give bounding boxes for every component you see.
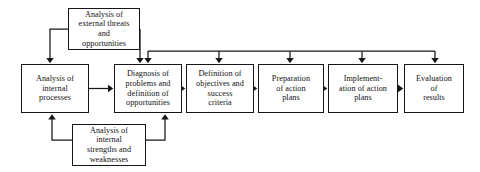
edge-strengths-to-internal-processes	[52, 117, 72, 140]
node-definition-of-objectives[interactable]: Definition of objectives and success cri…	[186, 64, 254, 113]
node-label: Definition of objectives and success cri…	[189, 69, 251, 107]
node-diagnosis-of-problems[interactable]: Diagnosis of problems and definition of …	[114, 64, 182, 113]
node-evaluation-of-results[interactable]: Evaluation of results	[404, 64, 464, 113]
node-label: Implement- ation of action plans	[331, 74, 395, 103]
node-preparation-of-action-plans[interactable]: Preparation of action plans	[258, 64, 324, 113]
node-analysis-external-threats[interactable]: Analysis of external threats and opportu…	[68, 8, 140, 50]
node-label: Analysis of external threats and opportu…	[71, 10, 137, 48]
node-label: Evaluation of results	[407, 74, 461, 103]
edge-external-to-internal-processes	[50, 29, 68, 61]
node-label: Analysis of internal strengths and weakn…	[75, 126, 143, 164]
node-label: Diagnosis of problems and definition of …	[117, 69, 179, 107]
node-analysis-internal-strengths[interactable]: Analysis of internal strengths and weakn…	[72, 124, 146, 166]
node-implementation-of-action-plans[interactable]: Implement- ation of action plans	[328, 64, 398, 113]
edge-strengths-to-diagnosis	[146, 117, 165, 140]
node-label: Preparation of action plans	[261, 74, 321, 103]
node-analysis-internal-processes[interactable]: Analysis of internal processes	[21, 64, 89, 113]
node-label: Analysis of internal processes	[24, 74, 86, 103]
flowchart-diagram: Analysis of external threats and opportu…	[0, 0, 480, 172]
